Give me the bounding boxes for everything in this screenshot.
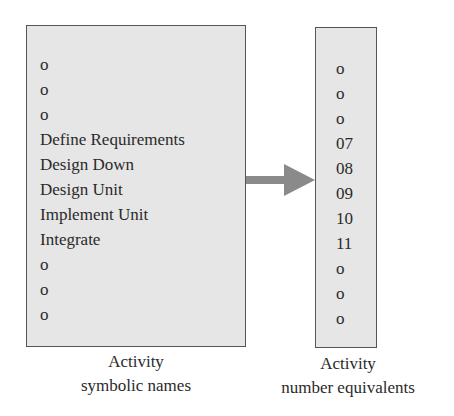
list-item: o <box>40 277 185 302</box>
caption-line: Activity <box>26 350 246 374</box>
right-arrow-icon <box>246 162 316 198</box>
list-item: Implement Unit <box>40 202 185 227</box>
caption-line: number equivalents <box>250 376 446 400</box>
list-item: Design Down <box>40 152 185 177</box>
list-item: o <box>40 52 185 77</box>
list-item: 10 <box>316 206 376 231</box>
symbolic-names-list: o o o Define Requirements Design Down De… <box>40 52 185 327</box>
list-item: o <box>40 102 185 127</box>
number-equivalents-list: o o o 07 08 09 10 11 o o o <box>316 56 376 331</box>
list-item: o <box>316 81 376 106</box>
list-item: o <box>40 77 185 102</box>
list-item: Define Requirements <box>40 127 185 152</box>
list-item: 08 <box>316 156 376 181</box>
list-item: o <box>40 252 185 277</box>
list-item: o <box>316 281 376 306</box>
list-item: 07 <box>316 131 376 156</box>
list-item: o <box>316 256 376 281</box>
number-equivalents-caption: Activity number equivalents <box>250 352 446 400</box>
list-item: Design Unit <box>40 177 185 202</box>
symbolic-names-caption: Activity symbolic names <box>26 350 246 398</box>
caption-line: symbolic names <box>26 374 246 398</box>
list-item: o <box>316 106 376 131</box>
list-item: 11 <box>316 231 376 256</box>
symbolic-names-box: o o o Define Requirements Design Down De… <box>26 25 246 347</box>
list-item: o <box>316 56 376 81</box>
number-equivalents-box: o o o 07 08 09 10 11 o o o <box>315 27 377 348</box>
caption-line: Activity <box>250 352 446 376</box>
list-item: 09 <box>316 181 376 206</box>
list-item: o <box>316 306 376 331</box>
list-item: o <box>40 302 185 327</box>
list-item: Integrate <box>40 227 185 252</box>
